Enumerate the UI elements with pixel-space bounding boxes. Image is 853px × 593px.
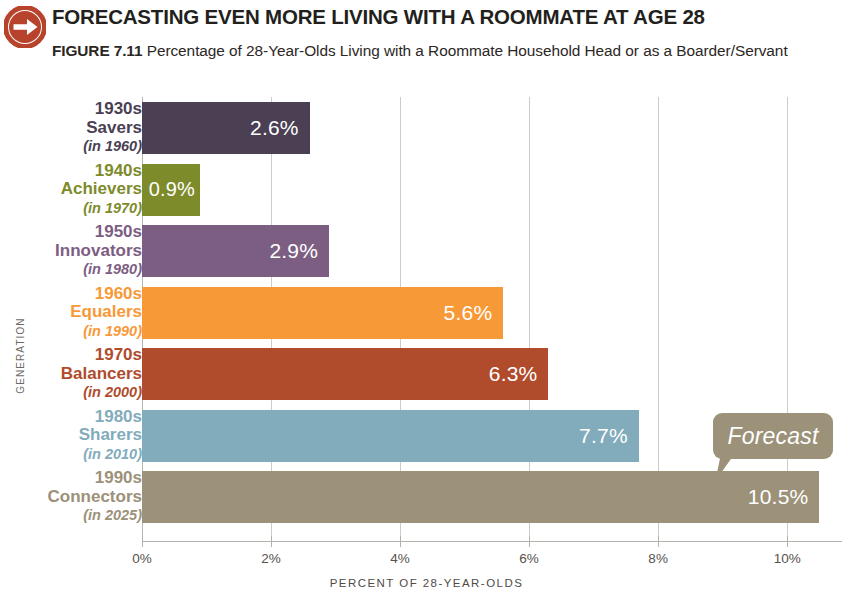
figure-number: FIGURE 7.11 (52, 42, 142, 59)
x-axis-title: PERCENT OF 28-YEAR-OLDS (0, 577, 853, 589)
category-name: Innovators (55, 241, 142, 260)
category-name: Balancers (61, 364, 142, 383)
category-year: (in 1970) (61, 199, 142, 218)
category-decade: 1980s (95, 407, 142, 426)
x-tick-mark (400, 536, 401, 547)
category-year: (in 1980) (55, 260, 142, 279)
bar-value-label: 2.6% (250, 116, 310, 140)
category-name: Achievers (61, 179, 142, 198)
category-decade: 1930s (95, 99, 142, 118)
bar-value-label: 0.9% (149, 178, 200, 201)
x-tick-mark (142, 536, 143, 547)
category-decade: 1990s (95, 468, 142, 487)
bar-row: 1970sBalancers(in 2000)6.3% (0, 348, 853, 400)
bar-row: 1950sInnovators(in 1980)2.9% (0, 225, 853, 277)
category-label: 1970sBalancers(in 2000) (61, 346, 142, 402)
category-decade: 1960s (95, 284, 142, 303)
bar-row: 1940sAchievers(in 1970)0.9% (0, 164, 853, 216)
bar: 2.9% (142, 225, 329, 277)
category-name: Sharers (79, 425, 142, 444)
x-tick-mark (529, 536, 530, 547)
category-name: Equalers (70, 302, 142, 321)
category-label: 1950sInnovators(in 1980) (55, 223, 142, 279)
x-tick-mark (271, 536, 272, 547)
category-label: 1940sAchievers(in 1970) (61, 162, 142, 218)
bar-value-label: 7.7% (579, 424, 639, 448)
x-tick-label: 2% (261, 551, 281, 566)
category-decade: 1970s (95, 345, 142, 364)
figure-header: FORECASTING EVEN MORE LIVING WITH A ROOM… (0, 0, 853, 95)
x-tick-mark (658, 536, 659, 547)
bar: 7.7% (142, 410, 639, 462)
bar-value-label: 5.6% (444, 301, 504, 325)
forecast-callout-label: Forecast (727, 423, 818, 450)
x-axis-line (142, 541, 842, 542)
category-year: (in 2000) (61, 383, 142, 402)
x-tick-label: 8% (648, 551, 668, 566)
category-name: Connectors (48, 487, 142, 506)
forecast-callout: Forecast (713, 413, 833, 459)
category-label: 1930sSavers(in 1960) (83, 100, 142, 156)
category-decade: 1950s (95, 222, 142, 241)
category-year: (in 2010) (79, 445, 142, 464)
x-tick-label: 6% (519, 551, 539, 566)
x-tick-label: 0% (132, 551, 152, 566)
category-year: (in 2025) (48, 506, 142, 525)
category-year: (in 1960) (83, 137, 142, 156)
bar: 2.6% (142, 102, 310, 154)
category-decade: 1940s (95, 161, 142, 180)
x-tick-label: 4% (390, 551, 410, 566)
bar-value-label: 2.9% (269, 239, 329, 263)
category-label: 1980sSharers(in 2010) (79, 408, 142, 464)
figure-caption-text: Percentage of 28-Year-Olds Living with a… (142, 42, 787, 59)
category-name: Savers (86, 118, 142, 137)
bar: 0.9% (142, 164, 200, 216)
chart-plot-area: GENERATION 1930sSavers(in 1960)2.6%1940s… (0, 95, 853, 593)
bar-value-label: 10.5% (748, 485, 820, 509)
category-label: 1990sConnectors(in 2025) (48, 469, 142, 525)
x-tick-label: 10% (774, 551, 801, 566)
figure-caption: FIGURE 7.11 Percentage of 28-Year-Olds L… (52, 38, 853, 63)
category-label: 1960sEqualers(in 1990) (70, 285, 142, 341)
category-year: (in 1990) (70, 322, 142, 341)
bar-row: 1930sSavers(in 1960)2.6% (0, 102, 853, 154)
bar: 6.3% (142, 348, 548, 400)
bar: 5.6% (142, 287, 503, 339)
arrow-right-circle-icon (4, 6, 46, 48)
figure-kicker-title: FORECASTING EVEN MORE LIVING WITH A ROOM… (52, 5, 705, 29)
bar-value-label: 6.3% (489, 362, 549, 386)
bar-row: 1960sEqualers(in 1990)5.6% (0, 287, 853, 339)
x-tick-mark (787, 536, 788, 547)
